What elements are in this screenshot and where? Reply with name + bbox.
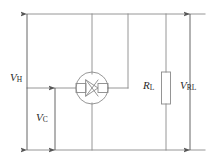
- label-rl-symbol: R: [143, 79, 150, 91]
- label-vrl-symbol: V: [180, 79, 187, 91]
- label-vrl-subscript: RL: [187, 83, 197, 92]
- label-vh-subscript: H: [17, 75, 22, 84]
- label-vc-symbol: V: [36, 111, 43, 123]
- label-vrl: VRL: [180, 80, 196, 92]
- label-vh: VH: [10, 72, 22, 84]
- label-vc-subscript: C: [43, 115, 48, 124]
- label-rl-subscript: L: [150, 83, 155, 92]
- label-vc: VC: [36, 112, 48, 124]
- label-vh-symbol: V: [10, 71, 17, 83]
- circuit-diagram: VH VC RL VRL: [0, 0, 213, 166]
- label-rl: RL: [143, 80, 154, 92]
- hall-contact-left: [76, 84, 86, 93]
- hall-contact-right: [98, 84, 108, 93]
- resistor-box: [162, 72, 171, 104]
